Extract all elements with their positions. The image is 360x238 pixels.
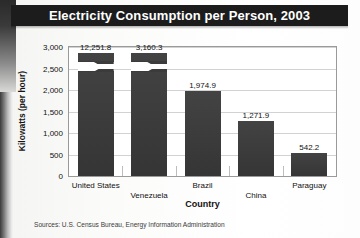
axis-break-mark — [78, 62, 114, 71]
category-separator — [229, 166, 230, 176]
bar-value-label: 542.2 — [277, 143, 341, 152]
y-tick-label: 500 — [29, 151, 63, 160]
category-separator — [283, 166, 284, 176]
bar-value-label: 1,974.9 — [171, 81, 235, 90]
y-tick-label: 1,000 — [29, 129, 63, 138]
category-separator — [176, 166, 177, 176]
y-tick-label: 0 — [29, 172, 63, 181]
bar — [291, 153, 327, 176]
y-tick-label: 1,500 — [29, 108, 63, 117]
source-note: Sources: U.S. Census Bureau, Energy Info… — [34, 221, 225, 228]
x-category-label: United States — [61, 181, 131, 190]
x-category-label: Brazil — [168, 181, 238, 190]
y-tick-label: 3,000 — [29, 43, 63, 52]
bar-value-label: 1,271.9 — [224, 111, 288, 120]
bar — [78, 53, 114, 176]
y-tick-label: 2,500 — [29, 65, 63, 74]
y-tick-label: 2,000 — [29, 86, 63, 95]
bar-value-label: 3,160.3 — [117, 43, 181, 52]
axis-break-mark — [131, 62, 167, 71]
bar — [131, 53, 167, 176]
category-separator — [122, 166, 123, 176]
x-category-label: Paraguay — [274, 181, 344, 190]
figure-page: Electricity Consumption per Person, 2003… — [0, 0, 360, 238]
plot-area — [68, 46, 337, 177]
bar — [238, 121, 274, 176]
bar — [185, 91, 221, 176]
x-axis-title: Country — [68, 199, 337, 209]
